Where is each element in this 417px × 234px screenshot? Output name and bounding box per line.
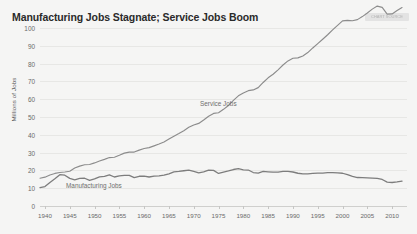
x-axis-tick-label: 2000 (336, 212, 350, 219)
x-axis-tick-label: 1970 (187, 212, 201, 219)
x-axis-tick-label: 1955 (113, 212, 127, 219)
x-axis-tick-label: 1995 (311, 212, 325, 219)
series-label-service: Service Jobs (200, 100, 237, 107)
x-axis-tick-mark (243, 206, 244, 209)
x-axis-tick-mark (95, 206, 96, 209)
x-axis-tick-mark (219, 206, 220, 209)
y-axis-title: Millions of Jobs (10, 65, 17, 135)
x-axis-tick-label: 1990 (286, 212, 300, 219)
x-axis-tick-mark (144, 206, 145, 209)
x-axis-tick-mark (343, 206, 344, 209)
series-label-manufacturing: Manufacturing Jobs (66, 182, 122, 189)
line-service-jobs (40, 6, 402, 178)
y-axis-tick-label: 0 (31, 203, 35, 210)
y-axis-tick-label: 80 (28, 60, 35, 67)
y-axis-tick-label: 60 (28, 96, 35, 103)
x-axis-tick-label: 1945 (63, 212, 77, 219)
x-axis-tick-mark (119, 206, 120, 209)
x-axis-tick-mark (318, 206, 319, 209)
x-axis-tick-label: 1980 (236, 212, 250, 219)
x-axis-tick-label: 1950 (88, 212, 102, 219)
x-axis-tick-label: 1975 (212, 212, 226, 219)
x-axis-tick-mark (268, 206, 269, 209)
x-axis-tick-mark (45, 206, 46, 209)
chart-container: Manufacturing Jobs Stagnate; Service Job… (0, 0, 417, 234)
x-axis-tick-mark (293, 206, 294, 209)
y-axis-tick-label: 90 (28, 42, 35, 49)
x-axis-tick-label: 2005 (360, 212, 374, 219)
x-axis-tick-label: 1960 (137, 212, 151, 219)
x-axis-tick-mark (367, 206, 368, 209)
x-axis-tick-label: 1940 (38, 212, 52, 219)
x-axis-tick-label: 1985 (261, 212, 275, 219)
y-axis-tick-label: 50 (28, 114, 35, 121)
y-axis-tick-label: 20 (28, 167, 35, 174)
y-axis-tick-label: 10 (28, 185, 35, 192)
x-axis-tick-mark (194, 206, 195, 209)
y-axis-tick-label: 100 (24, 25, 35, 32)
x-axis-tick-label: 2010 (385, 212, 399, 219)
series-lines (40, 28, 407, 206)
x-axis-tick-mark (392, 206, 393, 209)
page-title: Manufacturing Jobs Stagnate; Service Job… (12, 11, 258, 23)
y-axis-tick-label: 30 (28, 149, 35, 156)
x-axis-tick-mark (169, 206, 170, 209)
x-axis-tick-label: 1965 (162, 212, 176, 219)
y-axis-tick-label: 40 (28, 131, 35, 138)
y-axis-tick-label: 70 (28, 78, 35, 85)
plot-area: 0102030405060708090100 19401945195019551… (40, 28, 407, 206)
x-axis-tick-mark (70, 206, 71, 209)
